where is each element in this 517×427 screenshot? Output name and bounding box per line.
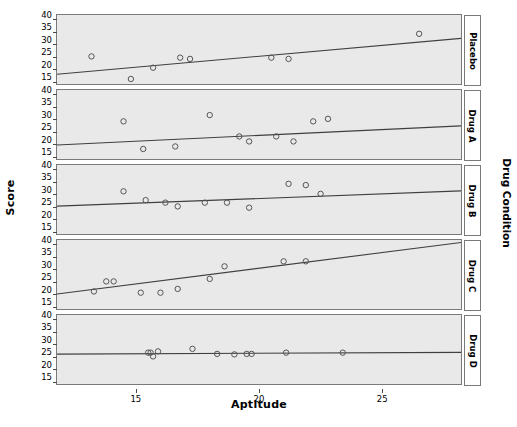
panel-strip-text: Placebo bbox=[468, 32, 478, 70]
data-point bbox=[121, 189, 126, 194]
panel-drug-a: 152025303540Drug A bbox=[56, 89, 462, 160]
chart-root: Score 152025303540Placebo152025303540Dru… bbox=[0, 0, 517, 427]
data-point bbox=[141, 146, 146, 151]
data-point bbox=[222, 264, 227, 269]
panel-strip-label: Drug D bbox=[464, 315, 481, 386]
panel-placebo: 152025303540Placebo bbox=[56, 14, 462, 85]
data-point bbox=[175, 204, 180, 209]
data-point bbox=[232, 352, 237, 357]
panel-group-title: Drug Condition bbox=[497, 8, 517, 398]
data-point bbox=[281, 259, 286, 264]
data-point bbox=[303, 182, 308, 187]
data-point bbox=[143, 197, 148, 202]
data-point bbox=[246, 139, 251, 144]
panel-strip-text: Drug B bbox=[468, 184, 478, 217]
data-point bbox=[291, 139, 296, 144]
plot-area bbox=[57, 240, 461, 309]
plot-area bbox=[57, 15, 461, 84]
regression-line bbox=[57, 38, 461, 74]
panel-drug-b: 152025303540Drug B bbox=[56, 164, 462, 235]
x-axis-title: Aptitude bbox=[55, 398, 463, 411]
panel-strip-text: Drug A bbox=[468, 109, 478, 142]
data-point bbox=[121, 119, 126, 124]
panel-strip-label: Drug B bbox=[464, 165, 481, 236]
data-point bbox=[286, 181, 291, 186]
plot-area bbox=[57, 90, 461, 159]
plot-area bbox=[57, 165, 461, 234]
data-point bbox=[190, 346, 195, 351]
data-point bbox=[128, 76, 133, 81]
panel-drug-d: 152025303540Drug D bbox=[56, 314, 462, 385]
data-point bbox=[286, 56, 291, 61]
y-axis-ticks: 152025303540 bbox=[27, 240, 57, 311]
data-point bbox=[177, 55, 182, 60]
data-point bbox=[207, 276, 212, 281]
panel-stack: 152025303540Placebo152025303540Drug A152… bbox=[56, 14, 462, 389]
y-axis-ticks: 152025303540 bbox=[27, 90, 57, 161]
data-point bbox=[104, 279, 109, 284]
panel-strip-label: Placebo bbox=[464, 15, 481, 86]
data-point bbox=[89, 54, 94, 59]
data-point bbox=[158, 290, 163, 295]
data-point bbox=[207, 112, 212, 117]
y-axis-ticks: 152025303540 bbox=[27, 315, 57, 386]
data-point bbox=[175, 286, 180, 291]
data-point bbox=[173, 144, 178, 149]
data-point bbox=[224, 200, 229, 205]
regression-line bbox=[57, 191, 461, 206]
regression-line bbox=[57, 126, 461, 145]
data-point bbox=[111, 279, 116, 284]
panel-strip-text: Drug D bbox=[468, 334, 478, 367]
panel-strip-label: Drug A bbox=[464, 90, 481, 161]
y-axis-ticks: 152025303540 bbox=[27, 165, 57, 236]
panel-strip-label: Drug C bbox=[464, 240, 481, 311]
plot-area bbox=[57, 315, 461, 384]
panel-drug-c: 152025303540Drug C bbox=[56, 239, 462, 310]
data-point bbox=[138, 290, 143, 295]
y-axis-ticks: 152025303540 bbox=[27, 15, 57, 86]
y-axis-title: Score bbox=[2, 0, 20, 395]
data-point bbox=[246, 205, 251, 210]
data-point bbox=[269, 55, 274, 60]
data-point bbox=[187, 56, 192, 61]
data-point bbox=[325, 116, 330, 121]
regression-line bbox=[57, 243, 461, 294]
data-point bbox=[310, 119, 315, 124]
panel-strip-text: Drug C bbox=[468, 259, 478, 292]
data-point bbox=[303, 259, 308, 264]
regression-line bbox=[57, 352, 461, 354]
data-point bbox=[416, 31, 421, 36]
